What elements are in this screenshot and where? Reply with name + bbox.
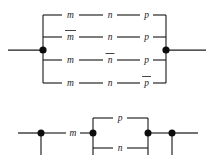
bottom-circuit-group: m p n <box>18 113 198 155</box>
top-branch-1: m n p <box>43 10 166 20</box>
bottom-parallel-bottom-label: n <box>118 143 123 153</box>
branch-1-element-1-label: m <box>67 10 74 20</box>
top-branch-3: m n p <box>43 54 166 66</box>
top-branch-2: m n p <box>43 31 166 43</box>
branch-4-element-2-label: n <box>108 78 113 88</box>
figure-root: m n p m n p m n <box>0 0 214 155</box>
bottom-parallel-top-label: p <box>117 113 123 123</box>
top-left-junction-node <box>39 46 46 53</box>
top-branch-4: m n p <box>43 77 166 89</box>
bottom-series-element-label: m <box>70 128 77 138</box>
branch-4-element-3-label: p <box>143 78 149 88</box>
bottom-junction-node-3 <box>145 130 152 137</box>
branch-2-element-1-label: m <box>67 32 74 42</box>
bottom-junction-node-4 <box>169 130 176 137</box>
branch-2-element-2-label: n <box>108 32 113 42</box>
bottom-junction-node-1 <box>38 130 45 137</box>
circuit-diagram-canvas: m n p m n p m n <box>0 0 214 155</box>
top-circuit-group: m n p m n p m n <box>8 10 206 88</box>
branch-1-element-3-label: p <box>143 10 149 20</box>
bottom-junction-node-2 <box>90 130 97 137</box>
branch-3-element-2-label: n <box>108 55 113 65</box>
branch-2-element-3-label: p <box>143 32 149 42</box>
top-right-junction-node <box>162 46 169 53</box>
branch-3-element-3-label: p <box>143 55 149 65</box>
branch-1-element-2-label: n <box>108 10 113 20</box>
branch-3-element-1-label: m <box>67 55 74 65</box>
branch-4-element-1-label: m <box>67 78 74 88</box>
